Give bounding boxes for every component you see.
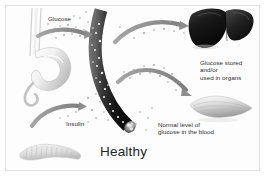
glucose-stored-label: Glucose stored and/or used in organs <box>200 59 242 81</box>
normal-level-label: Normal level of glucose in the blood <box>158 121 214 136</box>
liver-arrow <box>115 21 189 42</box>
pancreas-illustration <box>20 144 81 160</box>
insulin-label: Insulin <box>66 120 84 127</box>
muscle-arrow <box>118 70 192 96</box>
liver-illustration <box>189 9 254 50</box>
esophagus-illustration <box>30 8 41 56</box>
figure-title: Healthy <box>100 144 147 159</box>
stomach-illustration <box>25 48 71 106</box>
glucose-label: Glucose <box>48 15 71 22</box>
glucose-arrow <box>38 30 93 39</box>
glucose-metabolism-figure: Glucose Insulin Glucose stored and/or us… <box>0 0 265 176</box>
muscle-illustration <box>190 96 252 122</box>
